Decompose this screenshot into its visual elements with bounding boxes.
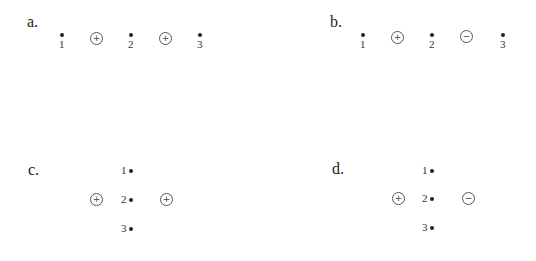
positive-charge-icon: +	[391, 31, 404, 44]
point-3-label: 3	[121, 223, 127, 234]
panel-d-label: d.	[332, 161, 344, 177]
point-1-dot	[60, 33, 64, 37]
point-1-label: 1	[422, 165, 428, 176]
point-3-label: 3	[500, 39, 506, 50]
point-1-dot	[129, 169, 133, 173]
point-2-dot	[430, 33, 434, 37]
point-2-label: 2	[429, 39, 435, 50]
point-3-label: 3	[422, 222, 428, 233]
negative-charge-icon: −	[460, 30, 473, 43]
point-1-label: 1	[360, 39, 366, 50]
panel-b-label: b.	[330, 14, 342, 30]
point-2-label: 2	[422, 193, 428, 204]
point-3-dot	[430, 226, 434, 230]
point-2-dot	[430, 197, 434, 201]
positive-charge-icon: +	[392, 192, 405, 205]
point-3-dot	[501, 33, 505, 37]
negative-charge-icon: −	[462, 192, 475, 205]
point-3-dot	[129, 227, 133, 231]
point-1-label: 1	[59, 39, 65, 50]
positive-charge-icon: +	[90, 193, 103, 206]
positive-charge-icon: +	[159, 32, 172, 45]
positive-charge-icon: +	[160, 193, 173, 206]
point-1-dot	[361, 33, 365, 37]
point-2-label: 2	[121, 194, 127, 205]
point-1-label: 1	[121, 165, 127, 176]
point-2-label: 2	[128, 39, 134, 50]
diagram: a. 1 + 2 + 3 b. 1 + 2 − 3 c. 1 + 2 + 3 d…	[0, 0, 536, 261]
point-1-dot	[430, 169, 434, 173]
panel-a-label: a.	[27, 14, 38, 30]
point-3-dot	[198, 33, 202, 37]
point-2-dot	[129, 198, 133, 202]
positive-charge-icon: +	[90, 32, 103, 45]
point-3-label: 3	[197, 39, 203, 50]
panel-c-label: c.	[28, 162, 39, 178]
point-2-dot	[129, 33, 133, 37]
